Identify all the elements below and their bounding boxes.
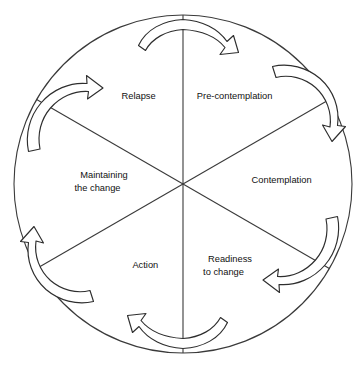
arrow-upper-right [273,65,346,141]
arrow-bottom [128,314,228,349]
sector-label-contemplation: Contemplation [234,175,325,185]
sector-label-readiness-to-change: Readinessto change [203,254,257,277]
sector-label-relapse: Relapse [103,91,168,101]
sector-label-pre-contemplation: Pre-contemplation [179,91,285,101]
arrow-lower-left [21,227,94,303]
arrow-lower-right [263,217,339,293]
sector-label-action: Action [115,260,171,270]
arrow-top [139,20,239,55]
stages-of-change-diagram: Pre-contemplation Contemplation Readines… [0,0,362,369]
cycle-wheel-svg: Pre-contemplation Contemplation Readines… [0,0,362,369]
arrow-upper-left [27,76,103,152]
sector-label-maintaining-the-change: Maintainingthe change [75,170,134,193]
